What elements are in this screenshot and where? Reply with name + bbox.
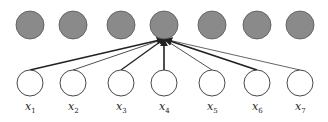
- neural-network-diagram: x1x2x3x4x5x6x7: [0, 0, 328, 122]
- edge-x7: [164, 39, 300, 70]
- output-node-6: [243, 11, 271, 39]
- edge-x6: [164, 39, 257, 70]
- edge-x5: [164, 39, 212, 70]
- output-node-1: [16, 11, 44, 39]
- output-node-4: [150, 11, 178, 39]
- input-node-4: [151, 70, 177, 96]
- input-layer: [17, 70, 313, 96]
- input-node-5: [199, 70, 225, 96]
- edge-x2: [73, 39, 164, 70]
- input-label-x6: x6: [252, 100, 263, 115]
- input-label-x3: x3: [116, 100, 127, 115]
- edge-x1: [30, 39, 164, 70]
- output-node-3: [107, 11, 135, 39]
- input-labels: x1x2x3x4x5x6x7: [25, 100, 306, 115]
- input-label-x2: x2: [68, 100, 79, 115]
- input-node-3: [108, 70, 134, 96]
- input-node-2: [60, 70, 86, 96]
- output-layer: [16, 11, 314, 39]
- input-label-x4: x4: [159, 100, 170, 115]
- connection-edges: [30, 39, 300, 70]
- output-node-7: [286, 11, 314, 39]
- input-node-6: [244, 70, 270, 96]
- output-node-2: [59, 11, 87, 39]
- input-label-x7: x7: [295, 100, 306, 115]
- input-label-x1: x1: [25, 100, 36, 115]
- input-node-1: [17, 70, 43, 96]
- input-node-7: [287, 70, 313, 96]
- input-label-x5: x5: [207, 100, 218, 115]
- output-node-5: [198, 11, 226, 39]
